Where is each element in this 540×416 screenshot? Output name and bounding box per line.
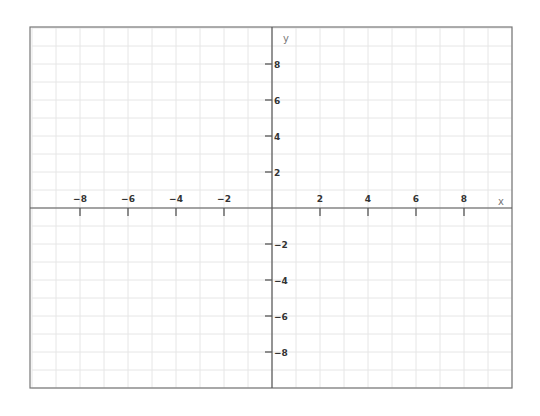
y-tick-label: −4 [274,276,288,286]
y-axis-label: y [283,33,289,44]
y-tick-label: −6 [274,312,288,322]
x-axis-label: x [498,196,504,207]
x-tick-label: 6 [413,194,419,204]
y-tick-label: 8 [274,60,280,70]
x-tick-label: 2 [317,194,323,204]
x-tick-label: −6 [121,194,135,204]
x-tick-label: 8 [461,194,467,204]
coordinate-plane: −8−6−4−224688642−2−4−6−8 x y [0,0,540,416]
y-tick-label: 6 [274,96,280,106]
y-tick-label: −8 [274,348,288,358]
x-tick-label: 4 [365,194,371,204]
x-tick-label: −2 [217,194,231,204]
x-tick-label: −4 [169,194,183,204]
y-tick-label: 4 [274,132,280,142]
y-tick-label: −2 [274,240,288,250]
x-tick-label: −8 [73,194,87,204]
y-tick-label: 2 [274,168,280,178]
